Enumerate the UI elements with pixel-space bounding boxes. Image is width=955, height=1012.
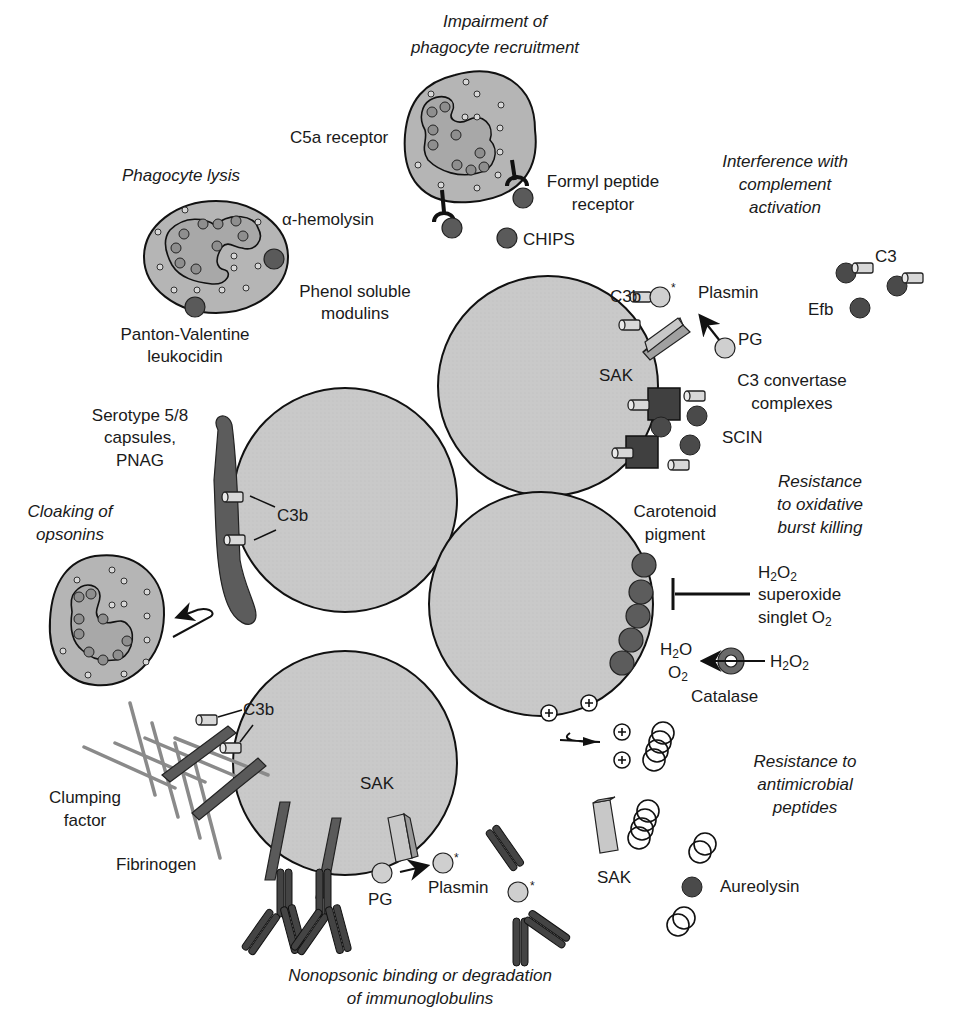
label-h2o2-substrate: H2O2 — [770, 652, 809, 672]
heading-antimicrobial-3: peptides — [730, 798, 880, 818]
heading-complement-2: complement — [705, 175, 865, 195]
c5a-ligand-icon — [442, 218, 462, 238]
heading-antimicrobial-2: antimicrobial — [730, 775, 880, 795]
label-carotenoid-1: Carotenoid — [620, 502, 730, 522]
label-serotype-2: capsules, — [70, 428, 210, 448]
label-pvl-1: Panton-Valentine — [100, 325, 270, 345]
pvl-icon — [185, 297, 205, 317]
heading-cloaking-2: opsonins — [20, 525, 120, 545]
label-c3b-top: C3b — [610, 287, 641, 307]
aureolysin-icon — [682, 877, 702, 897]
label-formyl-2: receptor — [538, 195, 668, 215]
label-plasmin-top: Plasmin — [698, 283, 758, 303]
heading-immunoglobulins-1: Nonopsonic binding or degradation — [230, 966, 610, 986]
label-serotype-1: Serotype 5/8 — [70, 406, 210, 426]
label-c5a-receptor: C5a receptor — [290, 128, 388, 148]
asterisk-bottom-2: * — [530, 876, 535, 896]
label-psm-2: modulins — [280, 304, 430, 324]
bacterial-cluster — [233, 276, 658, 875]
label-aureolysin: Aureolysin — [720, 877, 799, 897]
label-clumping-1: Clumping — [30, 788, 140, 808]
sak-top-icon — [643, 318, 690, 360]
label-fibrinogen: Fibrinogen — [116, 855, 196, 875]
label-c3-convertase-2: complexes — [722, 394, 862, 414]
scin-icon — [680, 435, 700, 455]
label-pg-bottom: PG — [368, 890, 393, 910]
heading-immunoglobulins-2: of immunoglobulins — [230, 989, 610, 1009]
plasmin-bottom-icon — [433, 853, 453, 873]
complement-interference — [612, 263, 923, 470]
plasmin-top-icon — [650, 287, 670, 307]
pg-bottom-icon — [372, 863, 392, 883]
label-sak-peptide: SAK — [597, 868, 631, 888]
phagocyte-cloaking — [50, 555, 213, 685]
label-superoxide: superoxide — [758, 585, 841, 605]
label-c3-convertase-1: C3 convertase — [722, 371, 862, 391]
heading-lysis: Phagocyte lysis — [122, 166, 240, 186]
efb-icon — [850, 298, 870, 318]
label-pg-top: PG — [738, 330, 763, 350]
phagocyte-recruitment — [405, 71, 536, 248]
heading-complement-3: activation — [705, 198, 865, 218]
heading-oxidative-2: to oxidative — [760, 495, 880, 515]
label-h2o2-ros: H2O2 — [758, 563, 797, 583]
heading-recruitment-1: Impairment of — [440, 12, 550, 32]
label-c3b-bottom: C3b — [243, 700, 274, 720]
label-formyl-1: Formyl peptide — [538, 172, 668, 192]
label-carotenoid-2: pigment — [620, 525, 730, 545]
bacterium-top-right — [438, 276, 658, 496]
label-sak-bottom: SAK — [360, 774, 394, 794]
label-alpha-hemolysin: α-hemolysin — [282, 210, 374, 230]
label-serotype-3: PNAG — [70, 451, 210, 471]
c3-convertase-icon — [648, 388, 680, 420]
label-pvl-2: leukocidin — [100, 347, 270, 367]
label-efb: Efb — [808, 300, 834, 320]
label-c3: C3 — [875, 247, 897, 267]
label-h2o: H2O — [660, 640, 692, 660]
label-clumping-2: factor — [30, 811, 140, 831]
label-scin: SCIN — [722, 428, 763, 448]
asterisk-bottom-1: * — [454, 848, 459, 868]
phagocyte-lysis — [144, 201, 288, 317]
antimicrobial-resistance — [541, 695, 716, 936]
label-catalase: Catalase — [691, 687, 758, 707]
alpha-hemolysin-icon — [264, 249, 284, 269]
heading-cloaking-1: Cloaking of — [20, 502, 120, 522]
label-sak-top: SAK — [599, 366, 633, 386]
asterisk-top: * — [671, 278, 676, 298]
heading-oxidative-3: burst killing — [760, 518, 880, 538]
bacterium-left — [233, 388, 457, 612]
bacterium-bottom — [233, 651, 457, 875]
sak-peptide-icon — [593, 797, 618, 853]
formyl-peptide-ligand-icon — [513, 188, 533, 208]
heading-recruitment-2: phagocyte recruitment — [390, 38, 600, 58]
label-singlet-o2: singlet O2 — [758, 608, 832, 628]
heading-oxidative-1: Resistance — [760, 472, 880, 492]
label-psm-1: Phenol soluble — [280, 282, 430, 302]
heading-complement-1: Interference with — [705, 152, 865, 172]
label-o2: O2 — [668, 663, 688, 683]
heading-antimicrobial-1: Resistance to — [730, 752, 880, 772]
label-c3b-capsule: C3b — [277, 506, 308, 526]
chips-icon — [497, 228, 517, 248]
pg-top-icon — [715, 338, 735, 358]
label-chips: CHIPS — [523, 230, 575, 250]
label-plasmin-bottom: Plasmin — [428, 878, 488, 898]
